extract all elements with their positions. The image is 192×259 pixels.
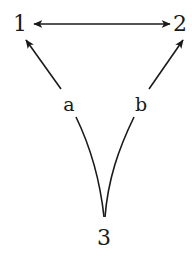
edge-3-to-a-curve — [76, 117, 104, 217]
node-1-label: 1 — [13, 11, 27, 36]
graph-diagram: 1 2 3 a b — [0, 0, 192, 259]
node-2-label: 2 — [173, 11, 187, 36]
edge-a-to-1-arrow — [26, 40, 61, 89]
edge-label-b: b — [135, 93, 147, 115]
edge-label-a: a — [63, 93, 74, 115]
edge-b-to-2-arrow — [149, 40, 183, 89]
edge-3-to-b-curve — [105, 117, 134, 217]
node-3-label: 3 — [97, 225, 111, 250]
